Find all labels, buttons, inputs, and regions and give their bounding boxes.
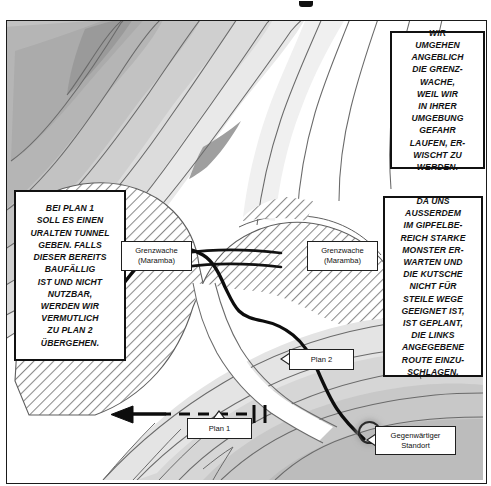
map-label-border-guard-east-text: Grenzwache (Maramba)	[321, 246, 364, 265]
page-crop-mark	[299, 1, 313, 7]
caption-summit-monsters: DA UNS AUSSERDEM IM GIPFELBE- REICH STAR…	[383, 196, 483, 377]
map-label-plan-1: Plan 1	[187, 418, 252, 439]
caption-plan-one-tunnel: BEI PLAN 1 SOLL ES EINEN URALTEN TUNNEL …	[14, 190, 126, 361]
map-label-plan-2: Plan 2	[289, 349, 354, 370]
route-map-page: WIR UMGEHEN ANGEBLICH DIE GRENZ- WACHE, …	[0, 0, 491, 486]
map-label-current-location: Gegenwärtiger Standort	[375, 426, 456, 455]
caption-border-guard: WIR UMGEHEN ANGEBLICH DIE GRENZ- WACHE, …	[390, 31, 485, 169]
caption-border-guard-text: WIR UMGEHEN ANGEBLICH DIE GRENZ- WACHE, …	[410, 27, 466, 173]
map-label-current-location-text: Gegenwärtiger Standort	[391, 431, 441, 450]
map-label-border-guard-west-text: Grenzwache (Maramba)	[135, 246, 178, 265]
map-label-border-guard-west: Grenzwache (Maramba)	[121, 241, 192, 271]
map-label-plan-1-text: Plan 1	[209, 424, 231, 434]
map-label-plan-2-text: Plan 2	[311, 355, 333, 365]
caption-summit-monsters-text: DA UNS AUSSERDEM IM GIPFELBE- REICH STAR…	[400, 195, 465, 378]
caption-plan-one-tunnel-text: BEI PLAN 1 SOLL ES EINEN URALTEN TUNNEL …	[30, 202, 109, 348]
map-label-border-guard-east: Grenzwache (Maramba)	[307, 241, 378, 271]
